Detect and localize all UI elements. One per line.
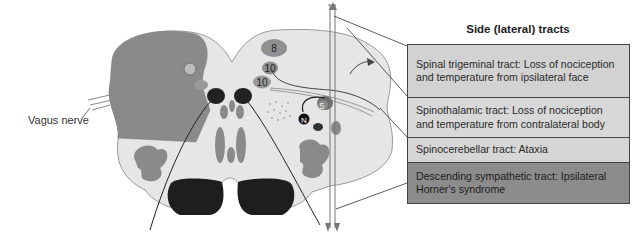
tract-text: Spinocerebellar tract: Ataxia: [416, 143, 548, 157]
tract-box-spinal-trigeminal: Spinal trigeminal tract: Loss of nocicep…: [407, 44, 630, 98]
nucleus-label-8: 8: [271, 43, 277, 54]
tract-text: Spinal trigeminal tract: Loss of nocicep…: [416, 58, 621, 85]
nucleus-label-n: N: [301, 116, 307, 125]
nucleus-label-10b: 10: [256, 77, 268, 88]
vagus-nerve-label: Vagus nerve: [28, 114, 89, 126]
panel-title: Side (lateral) tracts: [408, 23, 628, 35]
nucleus-label-10a: 10: [264, 63, 276, 74]
tract-text: Descending sympathetic tract: Ipsilatera…: [416, 170, 621, 197]
tract-text: Spinothalamic tract: Loss of nociception…: [416, 104, 621, 131]
tract-box-descending-sympathetic: Descending sympathetic tract: Ipsilatera…: [407, 162, 630, 204]
tract-box-spinocerebellar: Spinocerebellar tract: Ataxia: [407, 137, 630, 163]
nucleus-label-5: 5: [319, 101, 324, 111]
tract-box-spinothalamic: Spinothalamic tract: Loss of nociception…: [407, 97, 630, 138]
